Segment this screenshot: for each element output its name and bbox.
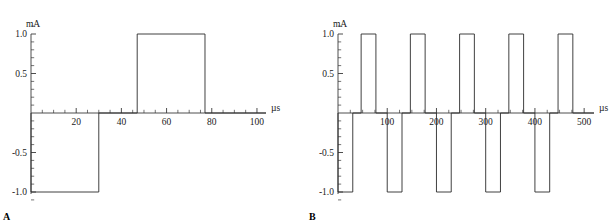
x-tick-label: 80 [207, 117, 217, 127]
y-tick-label: 0.5 [322, 69, 334, 79]
y-axis-unit-label: mA [26, 19, 40, 29]
figure-container: 204060801001.00.5-0.5-1.0mAµs A 10020030… [0, 0, 613, 224]
x-tick-label: 40 [117, 117, 127, 127]
x-axis-unit-label: µs [599, 103, 608, 113]
y-tick-label: 1.0 [15, 29, 27, 39]
y-tick-label: -0.5 [319, 148, 334, 158]
y-tick-label: -1.0 [12, 187, 27, 197]
x-tick-label: 20 [71, 117, 81, 127]
plot-b: 1002003004005001.00.5-0.5-1.0mAµs [306, 0, 613, 224]
y-tick-label: 0.5 [15, 69, 27, 79]
x-tick-label: 500 [577, 117, 592, 127]
y-tick-label: -1.0 [319, 187, 334, 197]
plot-a: 204060801001.00.5-0.5-1.0mAµs [0, 0, 306, 224]
y-tick-label: 1.0 [322, 29, 334, 39]
x-axis-unit-label: µs [271, 103, 280, 113]
x-tick-label: 60 [162, 117, 172, 127]
y-axis-unit-label: mA [333, 19, 347, 29]
panel-a: 204060801001.00.5-0.5-1.0mAµs A [0, 0, 306, 224]
x-tick-label: 100 [250, 117, 265, 127]
panel-b-label: B [309, 212, 316, 222]
y-tick-label: -0.5 [12, 148, 27, 158]
panel-b: 1002003004005001.00.5-0.5-1.0mAµs B [306, 0, 613, 224]
panel-a-label: A [3, 212, 10, 222]
